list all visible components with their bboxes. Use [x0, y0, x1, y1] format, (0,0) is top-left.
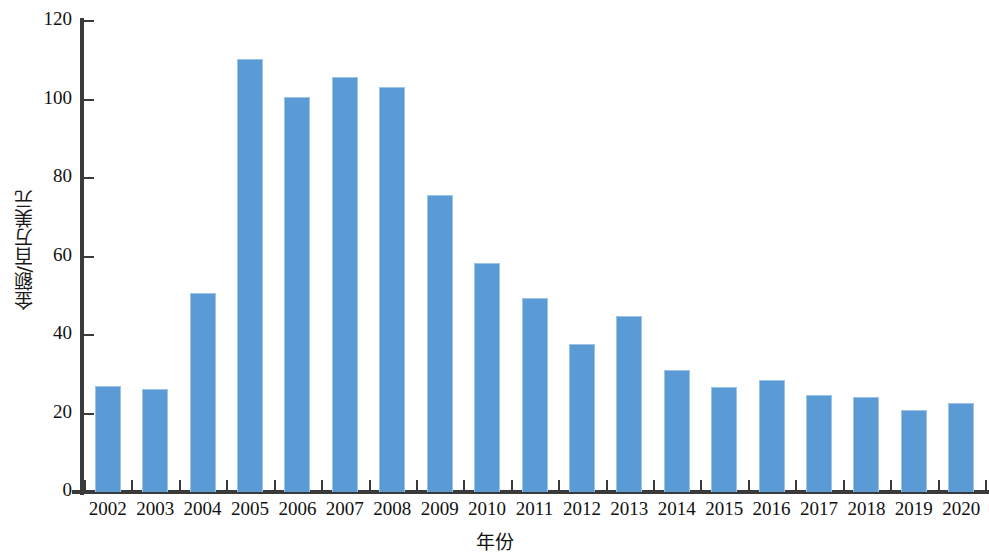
- bar-series: [80, 21, 989, 492]
- y-axis-tick-labels: 120100806040200: [20, 0, 72, 555]
- x-axis-tick-mark: [511, 480, 513, 491]
- bar-chart: 金额/百万美元 120100806040200 2002200320042005…: [0, 0, 989, 555]
- x-axis-tick-mark: [558, 480, 560, 491]
- x-axis-tick-mark: [131, 480, 133, 491]
- bar: [901, 410, 927, 492]
- x-axis-tick-mark: [369, 480, 371, 491]
- y-axis-tick-mark: [84, 334, 94, 336]
- bar: [616, 316, 642, 492]
- bar: [237, 59, 263, 492]
- x-axis-tick-label: 2016: [746, 498, 798, 520]
- bar: [427, 195, 453, 492]
- bar: [142, 389, 168, 492]
- x-axis-tick-mark: [463, 480, 465, 491]
- x-axis-tick-mark: [748, 480, 750, 491]
- x-axis-tick-label: 2010: [461, 498, 513, 520]
- y-axis-tick-label: 40: [26, 322, 72, 344]
- y-axis-tick-label: 80: [26, 165, 72, 187]
- x-axis-tick-mark: [274, 480, 276, 491]
- x-axis-tick-mark: [84, 480, 86, 491]
- bar: [284, 97, 310, 492]
- bar: [948, 403, 974, 492]
- y-axis-tick-mark: [84, 256, 94, 258]
- x-axis-tick-mark: [700, 480, 702, 491]
- bar: [190, 293, 216, 492]
- x-axis-tick-mark: [653, 480, 655, 491]
- x-axis-title: 年份: [0, 527, 989, 554]
- y-axis-tick-mark: [84, 20, 94, 22]
- bar: [379, 87, 405, 492]
- bar: [569, 344, 595, 492]
- x-axis-tick-mark: [321, 480, 323, 491]
- y-axis-tick-label: 100: [26, 87, 72, 109]
- bar: [332, 77, 358, 492]
- y-axis-tick-label: 60: [26, 244, 72, 266]
- x-axis-tick-label: 2004: [177, 498, 229, 520]
- bar: [95, 386, 121, 492]
- x-axis-tick-label: 2018: [840, 498, 892, 520]
- y-axis-tick-mark: [84, 177, 94, 179]
- x-axis-tick-mark: [843, 480, 845, 491]
- x-axis-tick-label: 2008: [366, 498, 418, 520]
- x-axis-tick-label: 2017: [793, 498, 845, 520]
- x-axis-tick-label: 2005: [224, 498, 276, 520]
- x-axis-tick-mark: [179, 480, 181, 491]
- y-axis-tick-mark: [84, 413, 94, 415]
- x-axis-tick-mark: [938, 480, 940, 491]
- x-axis-tick-label: 2009: [414, 498, 466, 520]
- x-axis-tick-label: 2019: [888, 498, 940, 520]
- x-axis-tick-mark: [985, 480, 987, 491]
- x-axis-tick-label: 2003: [129, 498, 181, 520]
- x-axis-tick-label: 2012: [556, 498, 608, 520]
- y-axis-tick-mark: [84, 491, 94, 493]
- plot-area: [80, 21, 989, 492]
- x-axis-tick-mark: [795, 480, 797, 491]
- bar: [522, 298, 548, 492]
- bar: [711, 387, 737, 492]
- y-axis-tick-label: 120: [26, 8, 72, 30]
- x-axis-tick-label: 2011: [509, 498, 561, 520]
- x-axis-tick-label: 2020: [935, 498, 987, 520]
- x-axis-tick-mark: [606, 480, 608, 491]
- bar: [664, 370, 690, 492]
- y-axis-tick-label: 20: [26, 401, 72, 423]
- bar: [806, 395, 832, 492]
- x-axis-tick-label: 2007: [319, 498, 371, 520]
- x-axis-tick-label: 2006: [271, 498, 323, 520]
- x-axis-tick-labels: 2002200320042005200620072008200920102011…: [0, 498, 989, 526]
- x-axis-tick-label: 2002: [82, 498, 134, 520]
- x-axis-tick-mark: [890, 480, 892, 491]
- y-axis-tick-mark: [84, 99, 94, 101]
- x-axis-tick-mark: [226, 480, 228, 491]
- bar: [759, 380, 785, 492]
- x-axis-tick-label: 2015: [698, 498, 750, 520]
- bar: [474, 263, 500, 492]
- x-axis-tick-label: 2014: [651, 498, 703, 520]
- bar: [853, 397, 879, 492]
- x-axis-tick-label: 2013: [603, 498, 655, 520]
- x-axis-tick-mark: [416, 480, 418, 491]
